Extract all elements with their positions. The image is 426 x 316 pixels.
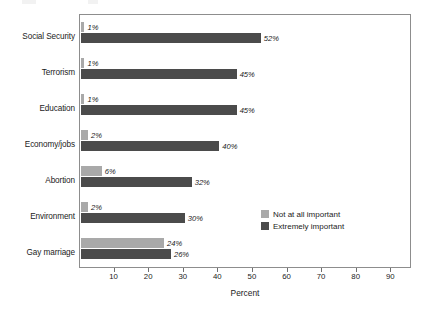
x-tick-label: 50 xyxy=(248,272,257,281)
category-label-economy-jobs: Economy/jobs xyxy=(25,140,75,149)
bar-fill xyxy=(81,69,237,79)
bar-light: 1% xyxy=(81,94,84,104)
bar-fill xyxy=(81,105,237,115)
category-row: Education1%45% xyxy=(80,90,410,126)
category-row: Economy/jobs2%40% xyxy=(80,126,410,162)
legend-label: Extremely important xyxy=(273,222,344,231)
top-edge-artifact xyxy=(0,0,426,6)
bar-fill xyxy=(81,141,219,151)
category-label-social-security: Social Security xyxy=(22,32,75,41)
bar-value-label: 26% xyxy=(174,250,189,259)
x-tick-label: 80 xyxy=(351,272,360,281)
bar-fill xyxy=(81,130,88,140)
bar-light: 2% xyxy=(81,202,88,212)
category-label-terrorism: Terrorism xyxy=(42,68,75,77)
bar-dark: 52% xyxy=(81,33,261,43)
bar-value-label: 24% xyxy=(167,239,182,248)
legend-item-dark: Extremely important xyxy=(261,220,344,232)
bar-light: 1% xyxy=(81,58,84,68)
bar-dark: 32% xyxy=(81,177,192,187)
plot-area: Social Security1%52%Terrorism1%45%Educat… xyxy=(79,14,411,268)
category-label-abortion: Abortion xyxy=(45,176,75,185)
bar-fill xyxy=(81,22,84,32)
x-tick-label: 20 xyxy=(144,272,153,281)
bar-value-label: 32% xyxy=(195,178,210,187)
bar-value-label: 2% xyxy=(91,203,102,212)
bar-light: 6% xyxy=(81,166,102,176)
x-tick-label: 30 xyxy=(178,272,187,281)
bar-value-label: 1% xyxy=(87,59,98,68)
bar-fill xyxy=(81,94,84,104)
bar-dark: 30% xyxy=(81,213,185,223)
category-label-gay-marriage: Gay marriage xyxy=(27,248,75,257)
bar-value-label: 1% xyxy=(87,23,98,32)
bar-value-label: 6% xyxy=(105,167,116,176)
x-tick-label: 40 xyxy=(213,272,222,281)
bar-dark: 40% xyxy=(81,141,219,151)
bar-value-label: 45% xyxy=(240,70,255,79)
bar-light: 24% xyxy=(81,238,164,248)
legend-swatch-icon xyxy=(261,210,269,218)
bar-fill xyxy=(81,177,192,187)
category-label-environment: Environment xyxy=(30,212,75,221)
bar-fill xyxy=(81,238,164,248)
legend-swatch-icon xyxy=(261,222,269,230)
bar-value-label: 45% xyxy=(240,106,255,115)
category-row: Environment2%30% xyxy=(80,198,410,234)
bar-dark: 45% xyxy=(81,69,237,79)
bar-value-label: 40% xyxy=(222,142,237,151)
bar-fill xyxy=(81,58,84,68)
x-tick-label: 90 xyxy=(386,272,395,281)
bar-value-label: 30% xyxy=(188,214,203,223)
chart-legend: Not at all importantExtremely important xyxy=(261,208,344,232)
bar-chart: Social Security1%52%Terrorism1%45%Educat… xyxy=(0,0,426,316)
bar-dark: 26% xyxy=(81,249,171,259)
bar-value-label: 2% xyxy=(91,131,102,140)
x-tick-label: 60 xyxy=(282,272,291,281)
category-row: Terrorism1%45% xyxy=(80,54,410,90)
category-row: Gay marriage24%26% xyxy=(80,234,410,270)
bar-light: 1% xyxy=(81,22,84,32)
legend-item-light: Not at all important xyxy=(261,208,344,220)
bar-fill xyxy=(81,166,102,176)
x-tick-label: 10 xyxy=(109,272,118,281)
bar-value-label: 1% xyxy=(87,95,98,104)
category-row: Abortion6%32% xyxy=(80,162,410,198)
category-label-education: Education xyxy=(39,104,75,113)
bar-value-label: 52% xyxy=(264,34,279,43)
bar-fill xyxy=(81,202,88,212)
bar-dark: 45% xyxy=(81,105,237,115)
bar-fill xyxy=(81,33,261,43)
x-tick-label: 70 xyxy=(317,272,326,281)
x-axis-title: Percent xyxy=(79,288,411,298)
bar-fill xyxy=(81,249,171,259)
bar-fill xyxy=(81,213,185,223)
legend-label: Not at all important xyxy=(273,210,340,219)
bar-light: 2% xyxy=(81,130,88,140)
category-row: Social Security1%52% xyxy=(80,18,410,54)
